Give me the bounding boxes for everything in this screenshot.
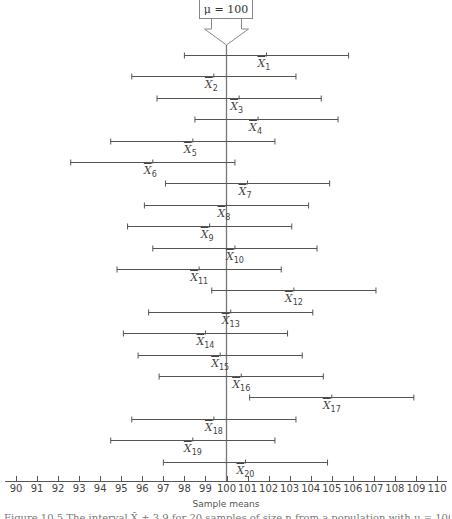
interval-mean-label: X18: [205, 422, 223, 437]
interval-mean-label: X6: [144, 165, 157, 180]
interval-mean-label: X16: [232, 379, 250, 394]
interval-mean-label: X5: [184, 144, 197, 159]
x-tick-label: 110: [427, 483, 446, 494]
interval-mean-label: X15: [211, 358, 229, 373]
interval-mean-label: X20: [236, 465, 254, 480]
x-tick-label: 108: [385, 483, 404, 494]
x-tick-label: 105: [322, 483, 341, 494]
x-tick-label: 96: [136, 483, 149, 494]
interval-mean-label: X7: [239, 186, 252, 201]
interval-mean-label: X2: [205, 79, 218, 94]
x-tick-label: 100: [217, 483, 236, 494]
figure-caption: Figure 10.5 The interval X̄ ± 3.9 for 20…: [4, 511, 450, 519]
interval-mean-label: X17: [323, 400, 341, 415]
x-axis-title: Sample means: [0, 499, 452, 509]
x-tick-label: 109: [406, 483, 425, 494]
x-tick-label: 90: [10, 483, 23, 494]
x-tick-label: 98: [178, 483, 191, 494]
x-tick-label: 99: [199, 483, 212, 494]
interval-mean-label: X14: [196, 336, 214, 351]
x-tick-label: 97: [157, 483, 170, 494]
mu-arrow-icon: [205, 19, 249, 45]
x-tick-label: 94: [94, 483, 107, 494]
interval-mean-label: X8: [218, 208, 231, 223]
interval-mean-label: X12: [285, 293, 303, 308]
interval-mean-label: X11: [190, 272, 208, 287]
interval-diagram: μ = 100 X1X2X3X4X5X6X7X8X9X10X11X12X13X1…: [0, 0, 452, 519]
interval-mean-label: X13: [222, 315, 240, 330]
interval-mean-label: X9: [201, 229, 214, 244]
x-tick-label: 103: [280, 483, 299, 494]
x-tick-label: 107: [364, 483, 383, 494]
x-tick-label: 93: [73, 483, 86, 494]
interval-mean-label: X4: [249, 122, 262, 137]
x-tick-label: 91: [31, 483, 44, 494]
interval-mean-label: X3: [230, 101, 243, 116]
x-tick-label: 95: [115, 483, 128, 494]
mu-label-box: μ = 100: [199, 0, 253, 19]
interval-mean-label: X10: [226, 251, 244, 266]
x-tick-label: 106: [343, 483, 362, 494]
interval-mean-label: X19: [184, 443, 202, 458]
interval-mean-label: X1: [257, 58, 270, 73]
x-tick-label: 104: [301, 483, 320, 494]
x-tick-label: 102: [259, 483, 278, 494]
x-tick-label: 101: [238, 483, 257, 494]
x-tick-label: 92: [52, 483, 65, 494]
